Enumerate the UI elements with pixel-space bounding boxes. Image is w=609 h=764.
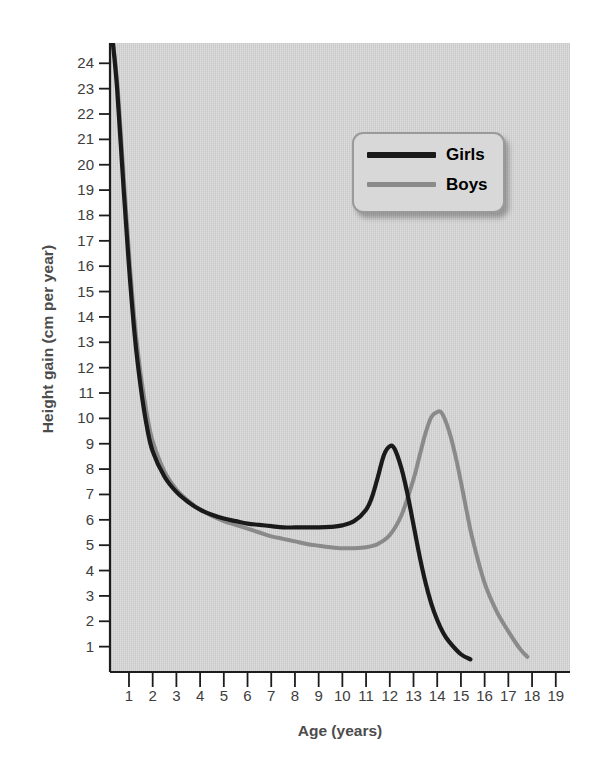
x-tick-label: 19 bbox=[541, 688, 571, 703]
y-tick-label: 14 bbox=[66, 309, 94, 324]
y-tick-label: 12 bbox=[66, 360, 94, 375]
legend-swatch-boys bbox=[367, 182, 436, 187]
y-tick-label: 24 bbox=[66, 55, 94, 70]
y-axis-tick-labels: 123456789101112131415161718192021222324 bbox=[48, 0, 94, 764]
chart-legend: Girls Boys bbox=[352, 132, 505, 213]
y-tick-label: 3 bbox=[66, 588, 94, 603]
legend-swatch-girls bbox=[367, 152, 436, 158]
y-tick-label: 16 bbox=[66, 258, 94, 273]
legend-label-boys: Boys bbox=[446, 176, 488, 193]
y-tick-label: 21 bbox=[66, 131, 94, 146]
y-tick-label: 13 bbox=[66, 334, 94, 349]
y-tick-label: 2 bbox=[66, 613, 94, 628]
y-tick-label: 22 bbox=[66, 106, 94, 121]
legend-item-girls: Girls bbox=[367, 146, 485, 163]
y-tick-label: 17 bbox=[66, 233, 94, 248]
y-tick-label: 20 bbox=[66, 157, 94, 172]
y-tick-label: 8 bbox=[66, 461, 94, 476]
y-tick-label: 23 bbox=[66, 81, 94, 96]
y-tick-label: 19 bbox=[66, 182, 94, 197]
legend-label-girls: Girls bbox=[446, 146, 485, 163]
x-axis-title: Age (years) bbox=[110, 722, 570, 740]
legend-item-boys: Boys bbox=[367, 176, 488, 193]
y-tick-label: 7 bbox=[66, 486, 94, 501]
y-tick-label: 4 bbox=[66, 563, 94, 578]
y-tick-label: 5 bbox=[66, 537, 94, 552]
y-tick-label: 10 bbox=[66, 410, 94, 425]
x-axis-tick-labels: 12345678910111213141516171819 bbox=[0, 688, 609, 712]
y-tick-label: 11 bbox=[66, 385, 94, 400]
y-tick-label: 18 bbox=[66, 207, 94, 222]
y-tick-label: 9 bbox=[66, 436, 94, 451]
y-tick-label: 1 bbox=[66, 639, 94, 654]
chart-page: Height gain (cm per year) Age (years) 12… bbox=[0, 0, 609, 764]
y-tick-label: 15 bbox=[66, 284, 94, 299]
y-tick-label: 6 bbox=[66, 512, 94, 527]
